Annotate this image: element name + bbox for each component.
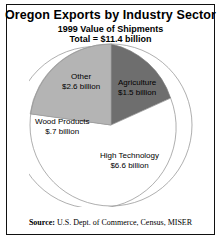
source-note: Source: U.S. Dept. of Commerce, Census, … (0, 218, 221, 228)
source-text: U.S. Dept. of Commerce, Census, MISER (55, 218, 192, 227)
pie-label-high-technology: High Technology $6.6 billion (100, 151, 159, 171)
pie-label-wood-products-name: Wood Products (35, 117, 90, 126)
pie-label-other: Other $2.6 billion (62, 72, 100, 92)
pie-label-other-name: Other (71, 72, 91, 81)
pie-label-high-technology-value: $6.6 billion (100, 161, 159, 171)
source-prefix: Source: (29, 218, 55, 227)
chart-figure: Oregon Exports by Industry Sector 1999 V… (0, 0, 221, 241)
pie-label-wood-products-value: $.7 billion (35, 127, 90, 137)
pie-label-wood-products: Wood Products $.7 billion (35, 117, 90, 137)
pie-label-agriculture-name: Agriculture (118, 78, 156, 87)
pie-label-agriculture: Agriculture $1.5 billion (118, 78, 156, 98)
pie-label-high-technology-name: High Technology (100, 151, 159, 160)
pie-label-agriculture-value: $1.5 billion (118, 88, 156, 98)
chart-title: Oregon Exports by Industry Sector (0, 8, 221, 22)
pie-label-other-value: $2.6 billion (62, 82, 100, 92)
